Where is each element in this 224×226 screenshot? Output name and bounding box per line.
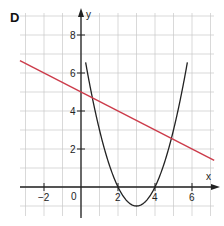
coordinate-plot: xy −202462468 D [0,0,224,226]
svg-text:4: 4 [152,192,158,203]
svg-text:−2: −2 [38,192,50,203]
svg-text:6: 6 [70,68,76,79]
axes: xy [20,8,220,218]
panel-label: D [10,10,19,25]
svg-text:2: 2 [70,144,76,155]
svg-text:8: 8 [70,30,76,41]
svg-text:6: 6 [189,192,195,203]
svg-text:y: y [86,9,91,20]
svg-text:x: x [206,171,211,182]
svg-text:2: 2 [115,192,121,203]
svg-text:0: 0 [71,191,77,202]
tick-labels: −202462468 [38,30,195,204]
svg-text:4: 4 [70,106,76,117]
